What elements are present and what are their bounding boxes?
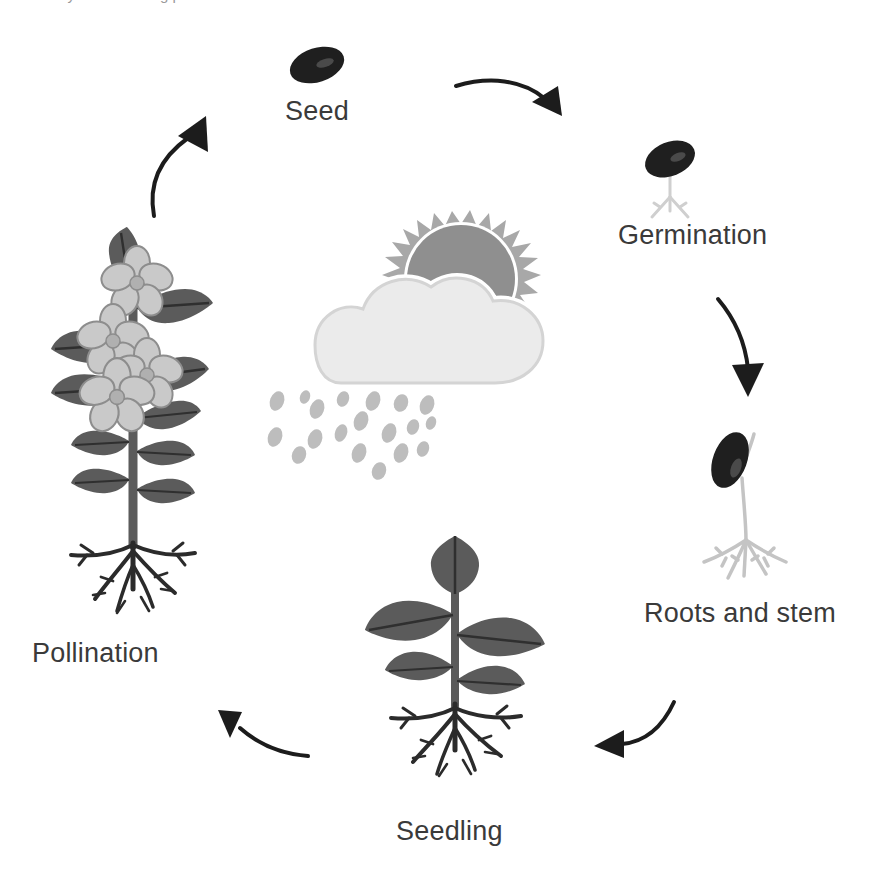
sprout-with-roots-icon (690, 428, 800, 588)
leaf (71, 431, 129, 455)
leaf (137, 441, 195, 465)
roots (391, 704, 521, 776)
leaf (385, 652, 453, 680)
stage-label-roots-and-stem: Roots and stem (644, 600, 836, 627)
sun-cloud-rain-illustration (255, 205, 595, 485)
stage-label-pollination: Pollination (32, 640, 159, 667)
leaf (137, 479, 195, 503)
seedling-plant-icon (355, 518, 555, 788)
roots (71, 543, 195, 613)
arrow-roots-to-seedling (572, 692, 702, 782)
leaf (71, 469, 129, 493)
leaf (457, 617, 545, 656)
stage-label-seed: Seed (285, 98, 349, 125)
leaf (365, 601, 453, 641)
stage-label-germination: Germination (618, 222, 767, 249)
arrow-seedling-to-pollination (186, 668, 326, 768)
arrow-seed-to-germination (450, 58, 580, 128)
stage-label-seedling: Seedling (396, 818, 503, 845)
leaf (457, 666, 525, 694)
germinating-seed-icon (630, 135, 720, 230)
plant-life-cycle-diagram: cy of a flowering plant (0, 0, 888, 875)
arrow-germination-to-roots (702, 285, 812, 415)
raindrops-icon (265, 389, 438, 482)
seed-icon (282, 40, 352, 90)
leaf (431, 536, 479, 594)
flowering-plant-icon (45, 245, 225, 625)
arrow-pollination-to-seed (110, 80, 240, 220)
cropped-title-text: cy of a flowering plant (60, 0, 205, 3)
